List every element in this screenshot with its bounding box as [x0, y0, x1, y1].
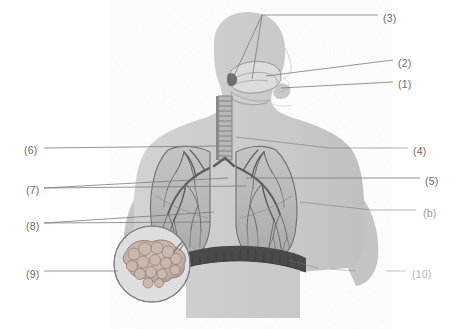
label-1: (1)	[398, 79, 411, 90]
label-6-right: (b)	[423, 208, 436, 219]
alveoli-inset	[114, 226, 190, 302]
label-3: (3)	[383, 13, 396, 24]
label-8: (8)	[26, 221, 39, 232]
label-9: (9)	[26, 269, 39, 280]
label-7: (7)	[26, 185, 39, 196]
label-10: (10)	[412, 269, 431, 280]
label-6: (6)	[24, 145, 37, 156]
leader-line-2	[266, 60, 393, 76]
label-5: (5)	[425, 176, 438, 187]
leader-line-1	[281, 82, 393, 88]
label-2: (2)	[398, 58, 411, 69]
label-4: (4)	[413, 146, 426, 157]
trachea	[216, 96, 232, 160]
respiratory-system-figure	[0, 0, 456, 329]
